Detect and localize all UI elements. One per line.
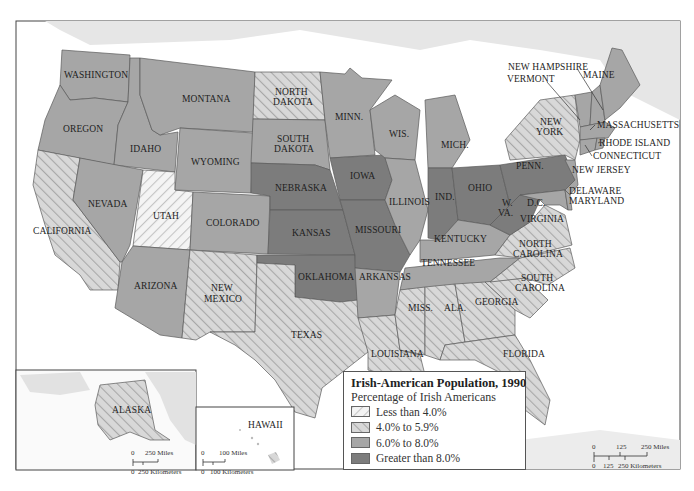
label-illinois: ILLINOIS (389, 197, 430, 207)
label-north-carolina-1: NORTH (519, 239, 552, 249)
label-california: CALIFORNIA (33, 226, 92, 236)
label-iowa: IOWA (350, 171, 375, 181)
legend-title: Irish-American Population, 1990 (351, 376, 518, 390)
label-virginia: VIRGINIA (520, 214, 564, 224)
label-mich: MICH. (441, 140, 469, 150)
label-south-dakota-1: SOUTH (277, 134, 309, 144)
label-new-hampshire: NEW HAMPSHIRE (508, 62, 588, 72)
label-dc: D.C. (527, 198, 545, 208)
label-south-dakota-2: DAKOTA (274, 144, 314, 154)
svg-text:250 Miles: 250 Miles (641, 443, 669, 451)
label-wyoming: WYOMING (191, 157, 240, 167)
label-miss: MISS. (408, 303, 433, 313)
label-nevada: NEVADA (88, 199, 128, 209)
label-wva-1: W. (502, 198, 513, 208)
label-colorado: COLORADO (206, 218, 260, 228)
label-new-york-2: YORK (536, 127, 563, 137)
svg-text:250 Kilometers: 250 Kilometers (618, 462, 662, 470)
label-georgia: GEORGIA (475, 297, 518, 307)
label-new-jersey: NEW JERSEY (572, 165, 631, 175)
hawaii-inset: HAWAII 0 100 Miles 0 100 Kilometers (196, 407, 294, 476)
label-ala: ALA. (444, 303, 466, 313)
label-texas: TEXAS (291, 330, 322, 340)
svg-text:0: 0 (131, 449, 135, 457)
swatch-hatch-icon (351, 422, 370, 433)
label-wva-2: VA. (498, 208, 513, 218)
label-idaho: IDAHO (130, 144, 161, 154)
svg-text:125: 125 (616, 443, 627, 451)
legend-item-4-to-5-9: 4.0% to 5.9% (351, 420, 518, 436)
svg-text:0: 0 (592, 462, 596, 470)
svg-text:100 Miles: 100 Miles (219, 449, 247, 457)
label-wis: WIS. (389, 129, 409, 139)
swatch-light-hatch-icon (351, 406, 370, 417)
label-montana: MONTANA (182, 94, 231, 104)
label-florida: FLORIDA (503, 349, 545, 359)
svg-text:0: 0 (201, 449, 205, 457)
label-connecticut: CONNECTICUT (593, 151, 661, 161)
label-oklahoma: OKLAHOMA (298, 272, 354, 282)
label-new-mexico-2: MEXICO (204, 294, 242, 304)
swatch-medium-gray-icon (351, 437, 370, 448)
state-mississippi (395, 287, 425, 355)
svg-text:0: 0 (131, 468, 135, 476)
label-north-carolina-2: CAROLINA (513, 249, 563, 259)
svg-text:0: 0 (592, 443, 596, 451)
label-ohio: OHIO (468, 183, 492, 193)
legend-subtitle: Percentage of Irish Americans (351, 390, 518, 404)
legend-label: 6.0% to 8.0% (376, 437, 439, 449)
label-north-dakota-1: NORTH (275, 87, 308, 97)
alaska-inset: ALASKA 0 250 Miles 0 250 Kilometers (16, 370, 196, 476)
map-legend: Irish-American Population, 1990 Percenta… (343, 371, 526, 470)
swatch-dark-gray-icon (351, 453, 370, 464)
label-new-york-1: NEW (540, 117, 562, 127)
label-maine: MAINE (583, 70, 615, 80)
label-rhode-island: RHODE ISLAND (599, 138, 670, 148)
svg-text:250 Miles: 250 Miles (145, 449, 173, 457)
svg-text:0: 0 (201, 468, 205, 476)
label-minn: MINN. (335, 112, 363, 122)
label-new-mexico-1: NEW (211, 283, 233, 293)
label-utah: UTAH (153, 211, 179, 221)
svg-text:250 Kilometers: 250 Kilometers (138, 468, 182, 476)
label-missouri: MISSOURI (355, 225, 401, 235)
legend-label: Greater than 8.0% (376, 452, 460, 464)
svg-text:125: 125 (603, 462, 614, 470)
label-penn: PENN. (516, 161, 544, 171)
label-maryland: MARYLAND (569, 196, 624, 206)
legend-item-less-than-4: Less than 4.0% (351, 404, 518, 420)
label-ind: IND. (435, 192, 455, 202)
label-arkansas: ARKANSAS (359, 272, 411, 282)
label-south-carolina-2: CAROLINA (515, 283, 565, 293)
label-south-carolina-1: SOUTH (521, 273, 553, 283)
label-washington: WASHINGTON (64, 70, 128, 80)
label-louisiana: LOUISIANA (371, 349, 424, 359)
legend-item-greater-than-8: Greater than 8.0% (351, 451, 518, 467)
legend-label: 4.0% to 5.9% (376, 421, 439, 433)
label-nebraska: NEBRASKA (275, 183, 327, 193)
label-massachusetts: MASSACHUSETTS (597, 120, 679, 130)
legend-label: Less than 4.0% (376, 406, 447, 418)
label-north-dakota-2: DAKOTA (273, 97, 313, 107)
label-arizona: ARIZONA (134, 281, 177, 291)
label-oregon: OREGON (63, 124, 103, 134)
label-kansas: KANSAS (292, 228, 331, 238)
legend-item-6-to-8: 6.0% to 8.0% (351, 435, 518, 451)
svg-text:100 Kilometers: 100 Kilometers (210, 468, 254, 476)
label-alaska: ALASKA (112, 405, 151, 415)
label-tennessee: TENNESSEE (421, 258, 475, 268)
label-hawaii: HAWAII (248, 420, 283, 430)
label-kentucky: KENTUCKY (434, 234, 487, 244)
label-delaware: DELAWARE (569, 186, 621, 196)
